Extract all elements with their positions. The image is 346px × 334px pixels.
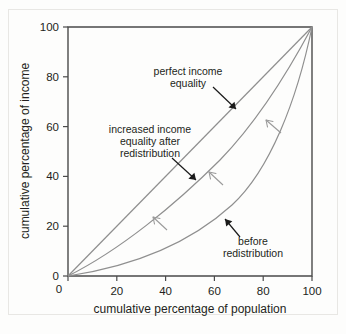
x-tick-label-100: 100 xyxy=(302,285,321,297)
annotation-before-redistribution: before redistribution xyxy=(223,219,283,259)
y-tick-label-0: 0 xyxy=(53,270,59,282)
x-axis-tick-labels: 0 20 40 60 80 100 xyxy=(56,283,322,297)
annotation-before-redistribution-line1: before xyxy=(238,235,268,247)
y-axis-tick-labels: 100 80 60 40 20 0 xyxy=(40,21,59,282)
y-tick-label-40: 40 xyxy=(46,170,59,182)
annotation-perfect-equality-arrow xyxy=(213,87,236,109)
annotation-perfect-equality-line2: equality xyxy=(170,77,207,89)
y-tick-label-100: 100 xyxy=(40,21,59,33)
direction-arrow-3 xyxy=(266,120,281,133)
y-axis-ticks xyxy=(63,27,68,276)
annotation-perfect-equality-line1: perfect income xyxy=(154,65,223,77)
x-axis-title: cumulative percentage of population xyxy=(94,302,287,316)
annotation-increased-equality-arrow xyxy=(172,158,196,180)
annotation-perfect-income-equality: perfect income equality xyxy=(154,65,236,109)
chart-canvas: 100 80 60 40 20 0 0 20 40 60 80 100 cumu… xyxy=(0,0,346,334)
x-tick-label-0: 0 xyxy=(56,283,62,295)
lorenz-curve-figure: 100 80 60 40 20 0 0 20 40 60 80 100 cumu… xyxy=(0,0,346,334)
annotation-increased-equality-line3: redistribution xyxy=(120,147,180,159)
annotation-increased-income-equality: increased income equality after redistri… xyxy=(109,123,196,180)
x-tick-label-60: 60 xyxy=(208,285,221,297)
y-axis-title: cumulative percentage of income xyxy=(18,63,32,239)
x-tick-label-20: 20 xyxy=(110,285,123,297)
y-tick-label-20: 20 xyxy=(46,220,59,232)
x-tick-label-40: 40 xyxy=(159,285,172,297)
annotation-increased-equality-line1: increased income xyxy=(109,123,191,135)
direction-arrow-2 xyxy=(209,172,223,185)
annotation-before-redistribution-line2: redistribution xyxy=(223,247,283,259)
direction-arrow-1 xyxy=(153,217,167,230)
x-tick-label-80: 80 xyxy=(257,285,270,297)
y-tick-label-80: 80 xyxy=(46,71,59,83)
annotation-increased-equality-line2: equality after xyxy=(120,135,181,147)
annotation-before-redistribution-arrow xyxy=(225,219,240,237)
y-tick-label-60: 60 xyxy=(46,121,59,133)
x-axis-ticks xyxy=(68,276,312,281)
